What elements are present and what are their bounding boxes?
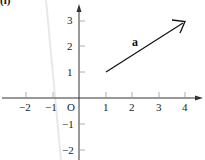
x-ticks bbox=[26, 92, 185, 98]
x-axis-arrowhead-icon bbox=[195, 96, 203, 101]
x-tick-label: 1 bbox=[103, 102, 109, 113]
y-tick-label: 3 bbox=[67, 15, 73, 26]
fold-shadow bbox=[46, 0, 61, 160]
x-tick-label: −1 bbox=[45, 102, 57, 113]
y-tick-label: −1 bbox=[62, 119, 74, 130]
y-tick-label: 2 bbox=[67, 41, 73, 52]
x-tick-label: 4 bbox=[182, 102, 188, 113]
y-tick-label: 1 bbox=[67, 67, 73, 78]
y-tick-label: −2 bbox=[62, 145, 74, 156]
vector-label: a bbox=[132, 35, 138, 50]
x-tick-label: 2 bbox=[129, 102, 135, 113]
x-tick-label: 3 bbox=[156, 102, 162, 113]
coordinate-diagram bbox=[0, 0, 205, 160]
vector-a bbox=[106, 23, 183, 72]
y-ticks bbox=[79, 21, 85, 150]
origin-label: O bbox=[67, 102, 75, 113]
y-axis-arrowhead-icon bbox=[77, 4, 82, 12]
x-tick-label: −2 bbox=[19, 102, 31, 113]
